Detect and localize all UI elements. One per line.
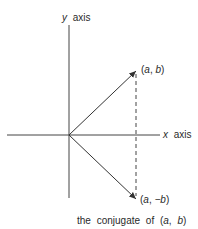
vector-a-minus-b	[69, 135, 136, 199]
x-word: axis	[174, 129, 192, 140]
point-a-b-label: (a, b)	[141, 65, 164, 75]
y-axis-label: y axis	[62, 13, 91, 23]
x-axis-label: x axis	[163, 130, 192, 140]
y-var: y	[62, 12, 67, 23]
vector-a-b	[69, 71, 136, 135]
caption: the conjugate of (a, b)	[77, 216, 186, 226]
y-word: axis	[73, 12, 91, 23]
point-a-minus-b-label: (a, −b)	[140, 195, 169, 205]
x-var: x	[163, 129, 168, 140]
